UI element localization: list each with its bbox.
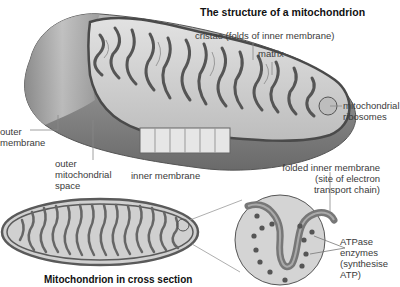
label-folded-line3: transport chain) bbox=[282, 184, 380, 195]
label-outer-space-line3: space bbox=[55, 180, 112, 191]
label-ribosomes: mitochondrial ribosomes bbox=[343, 100, 400, 122]
label-outer-space-line2: mitochondrial bbox=[55, 169, 112, 180]
cross-section-caption: Mitochondrion in cross section bbox=[44, 274, 192, 285]
label-cristae: cristae (folds of inner membrane) bbox=[195, 30, 334, 41]
label-atpase-line3: (synthesise bbox=[340, 258, 388, 269]
label-outer-space-line1: outer bbox=[55, 158, 112, 169]
label-outer-membrane: outer membrane bbox=[0, 126, 45, 148]
label-folded-inner-membrane: folded inner membrane (site of electron … bbox=[282, 162, 380, 195]
diagram-title: The structure of a mitochondrion bbox=[200, 6, 365, 18]
label-atpase-line2: enzymes bbox=[340, 247, 388, 258]
label-matrix: matrix bbox=[258, 48, 284, 59]
label-ribosomes-line1: mitochondrial bbox=[343, 100, 400, 111]
label-outer-space: outer mitochondrial space bbox=[55, 158, 112, 191]
label-atpase: ATPase enzymes (synthesise ATP) bbox=[340, 236, 388, 280]
label-ribosomes-line2: ribosomes bbox=[343, 111, 400, 122]
label-folded-line2: (site of electron bbox=[282, 173, 380, 184]
label-outer-membrane-line1: outer bbox=[0, 126, 45, 137]
label-folded-line1: folded inner membrane bbox=[282, 162, 380, 173]
mitochondrion-cross-section bbox=[2, 199, 198, 265]
label-inner-membrane: inner membrane bbox=[131, 170, 200, 181]
label-atpase-line4: ATP) bbox=[340, 269, 388, 280]
label-outer-membrane-line2: membrane bbox=[0, 137, 45, 148]
label-atpase-line1: ATPase bbox=[340, 236, 388, 247]
